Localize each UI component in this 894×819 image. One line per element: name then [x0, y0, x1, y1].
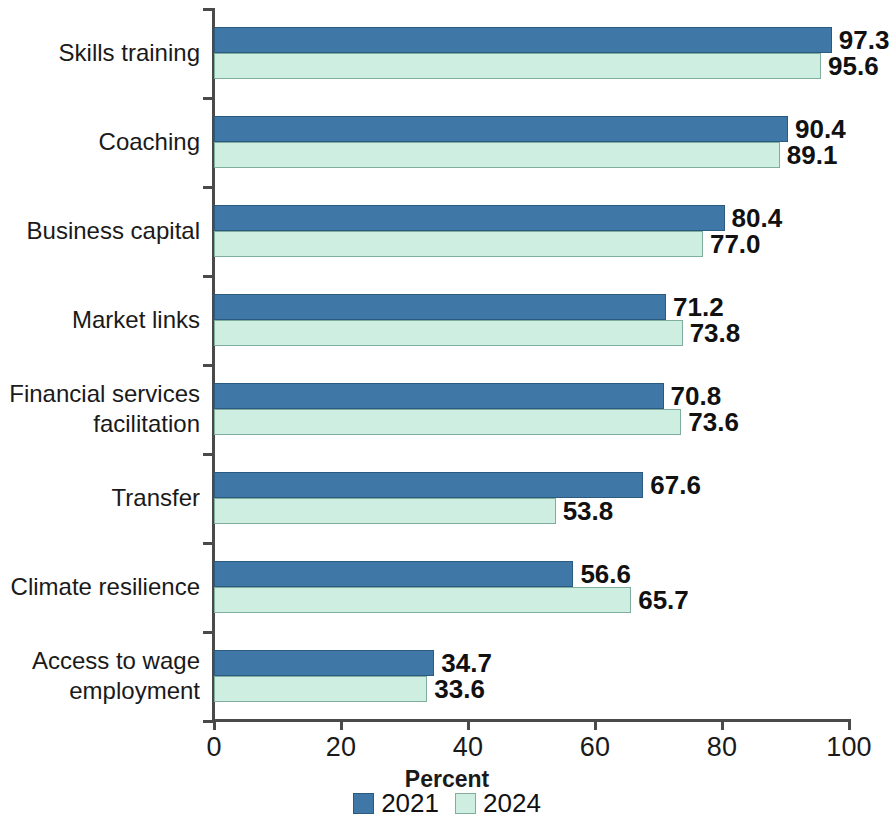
bar-value-label: 67.6: [650, 472, 701, 498]
category-label: Coaching: [0, 127, 200, 157]
bar-2024[interactable]: [214, 142, 780, 168]
legend-label: 2021: [381, 788, 439, 819]
bar-value-label: 33.6: [434, 676, 485, 702]
bar-value-label: 56.6: [580, 561, 631, 587]
bar-value-label: 70.8: [671, 383, 722, 409]
bar-2021[interactable]: [214, 650, 434, 676]
bar-value-label: 73.6: [688, 409, 739, 435]
bar-2024[interactable]: [214, 676, 427, 702]
x-axis-tick-label: 40: [453, 732, 483, 763]
bar-value-label: 80.4: [732, 205, 783, 231]
bar-value-label: 89.1: [787, 142, 838, 168]
bar-2021[interactable]: [214, 472, 643, 498]
bar-2024[interactable]: [214, 498, 556, 524]
bar-value-label: 71.2: [673, 294, 724, 320]
chart-container: Skills training97.395.6Coaching90.489.1B…: [0, 0, 894, 819]
bar-value-label: 73.8: [690, 320, 741, 346]
bar-2021[interactable]: [214, 383, 664, 409]
x-axis-tick-label: 0: [206, 732, 221, 763]
x-axis-tick: [594, 719, 597, 730]
x-axis-tick-label: 20: [326, 732, 356, 763]
x-axis-tick-label: 100: [826, 732, 872, 763]
bar-2024[interactable]: [214, 409, 681, 435]
y-axis-tick: [203, 631, 214, 634]
category-label: Transfer: [0, 483, 200, 513]
bar-2024[interactable]: [214, 53, 821, 79]
category-label: Climate resilience: [0, 572, 200, 602]
legend-item-2021[interactable]: 2021: [353, 788, 439, 819]
bar-2021[interactable]: [214, 294, 666, 320]
bar-value-label: 90.4: [795, 116, 846, 142]
y-axis-tick: [203, 186, 214, 189]
bar-2021[interactable]: [214, 561, 573, 587]
bar-2024[interactable]: [214, 587, 631, 613]
bar-2024[interactable]: [214, 320, 683, 346]
legend-item-2024[interactable]: 2024: [455, 788, 541, 819]
x-axis-tick: [340, 719, 343, 730]
bar-2021[interactable]: [214, 205, 725, 231]
x-axis-tick: [721, 719, 724, 730]
bar-value-label: 65.7: [638, 587, 689, 613]
legend-swatch-icon: [353, 793, 374, 814]
category-label: Market links: [0, 305, 200, 335]
y-axis-tick: [203, 453, 214, 456]
bar-2024[interactable]: [214, 231, 703, 257]
category-label: Financial services facilitation: [0, 379, 200, 439]
category-label: Skills training: [0, 38, 200, 68]
chart-legend: 20212024: [0, 788, 894, 819]
y-axis-tick: [203, 275, 214, 278]
x-axis-line: [212, 719, 851, 722]
x-axis-tick-label: 60: [580, 732, 610, 763]
legend-swatch-icon: [455, 793, 476, 814]
category-label: Business capital: [0, 216, 200, 246]
bar-value-label: 97.3: [839, 27, 890, 53]
bar-value-label: 77.0: [710, 231, 761, 257]
bar-value-label: 34.7: [441, 650, 492, 676]
category-label: Access to wage employment: [0, 646, 200, 706]
y-axis-tick: [203, 542, 214, 545]
bar-2021[interactable]: [214, 116, 788, 142]
x-axis-tick: [467, 719, 470, 730]
y-axis-tick: [203, 8, 214, 11]
bar-2021[interactable]: [214, 27, 832, 53]
y-axis-tick: [203, 97, 214, 100]
x-axis-tick: [213, 719, 216, 730]
x-axis-tick-label: 80: [707, 732, 737, 763]
x-axis-tick: [848, 719, 851, 730]
bar-value-label: 53.8: [563, 498, 614, 524]
bar-value-label: 95.6: [828, 53, 879, 79]
y-axis-tick: [203, 364, 214, 367]
legend-label: 2024: [483, 788, 541, 819]
